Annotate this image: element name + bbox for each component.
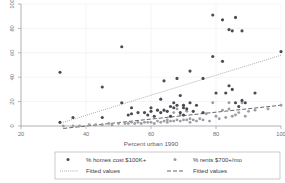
data-point [176, 107, 179, 110]
y-tick-label: 20 [9, 98, 15, 104]
data-point [101, 116, 104, 119]
data-point [179, 94, 182, 97]
data-point [179, 120, 182, 123]
data-point [124, 122, 127, 125]
data-point [234, 16, 237, 19]
data-point [234, 114, 237, 117]
data-point [162, 109, 165, 112]
data-point [208, 120, 211, 123]
data-point [240, 29, 243, 32]
y-tick-label: 100 [9, 0, 15, 9]
data-point [156, 120, 159, 123]
legend-label-fit-rents: Fitted values [193, 168, 227, 174]
data-point [101, 85, 104, 88]
data-point [120, 101, 123, 104]
data-point [136, 111, 139, 114]
data-point [218, 117, 221, 120]
data-point [88, 123, 91, 126]
data-point [117, 122, 120, 125]
data-point [146, 121, 149, 124]
data-point [198, 117, 201, 120]
legend-marker-rents [174, 158, 177, 161]
legend-label-fit-homes: Fitted values [86, 168, 120, 174]
data-point [201, 77, 204, 80]
y-tick-label: 0 [9, 124, 15, 127]
data-point [143, 121, 146, 124]
data-point [159, 111, 162, 114]
data-point [234, 101, 237, 104]
data-point [58, 71, 61, 74]
data-point [231, 88, 234, 91]
legend-label-homes: % homes cost $100K+ [86, 157, 147, 163]
data-point [149, 110, 152, 113]
data-point [211, 13, 214, 16]
data-point [231, 29, 234, 32]
data-point [189, 117, 192, 120]
data-point [211, 101, 214, 104]
data-point [162, 79, 165, 82]
data-point [247, 110, 250, 113]
data-point [192, 110, 195, 113]
data-point [237, 105, 240, 108]
data-point [185, 107, 188, 110]
x-tick-label: 60 [148, 131, 154, 137]
data-point [58, 121, 61, 124]
legend: % homes cost $100K+ % rents $700+/mo Fit… [55, 152, 280, 179]
data-point [71, 116, 74, 119]
data-point [189, 121, 192, 124]
data-point [127, 113, 130, 116]
scatter-plot-svg: 020406080100 20406080100 Percent urban 1… [0, 0, 285, 183]
data-point [182, 104, 185, 107]
data-point [254, 109, 257, 112]
data-point [120, 45, 123, 48]
data-point [224, 116, 227, 119]
data-point [101, 123, 104, 126]
data-point [228, 101, 231, 104]
data-point [172, 111, 175, 114]
data-point [228, 107, 231, 110]
x-tick-label: 80 [213, 131, 219, 137]
data-point [244, 115, 247, 118]
x-tick-label: 40 [83, 131, 89, 137]
data-point [156, 109, 159, 112]
data-point [111, 123, 114, 126]
data-point [130, 121, 133, 124]
data-point [166, 118, 169, 121]
data-point [153, 115, 156, 118]
data-point [237, 111, 240, 114]
data-point [214, 92, 217, 95]
data-point [175, 104, 178, 107]
data-point [78, 125, 81, 128]
data-point [231, 115, 234, 118]
data-point [267, 107, 270, 110]
data-point [188, 70, 191, 73]
data-point [72, 125, 75, 128]
data-point [224, 92, 227, 95]
data-point [240, 99, 243, 102]
data-point [202, 118, 205, 121]
data-point [192, 118, 195, 121]
data-point [130, 112, 133, 115]
data-point [172, 106, 175, 109]
data-point [149, 106, 152, 109]
data-point [163, 120, 166, 123]
data-point [133, 122, 136, 125]
data-point [227, 28, 230, 31]
data-point [280, 104, 283, 107]
data-point [143, 111, 146, 114]
data-point [211, 55, 214, 58]
data-point [137, 121, 140, 124]
data-point [221, 18, 224, 21]
data-point [185, 118, 188, 121]
data-point [153, 122, 156, 125]
data-point [150, 121, 153, 124]
x-axis-ticks: 20406080100 [18, 126, 285, 137]
data-point [195, 104, 198, 107]
y-tick-label: 80 [9, 25, 15, 31]
data-point [253, 92, 256, 95]
data-point [166, 110, 169, 113]
data-point [188, 101, 191, 104]
legend-label-rents: % rents $700+/mo [193, 157, 243, 163]
y-axis-ticks: 020406080100 [9, 0, 21, 128]
data-point [172, 101, 175, 104]
